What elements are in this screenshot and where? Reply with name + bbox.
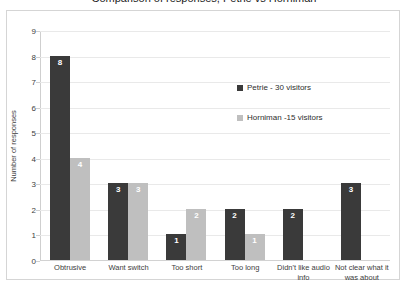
bar[interactable]: 2 bbox=[186, 209, 206, 260]
bar[interactable]: 3 bbox=[128, 183, 148, 260]
bar-group: 2 bbox=[274, 31, 332, 260]
bars-layer: 8433122123 bbox=[41, 31, 390, 260]
bar-value-label: 3 bbox=[128, 185, 148, 194]
bar-value-label: 2 bbox=[186, 211, 206, 220]
y-tick-label: 6 bbox=[16, 103, 36, 112]
bar[interactable]: 2 bbox=[283, 209, 303, 260]
y-tick-mark bbox=[36, 31, 40, 32]
y-tick-label: 1 bbox=[16, 231, 36, 240]
legend-label: Horniman -15 visitors bbox=[247, 113, 323, 122]
page-title: Comparison of responses, Petrie vs Horni… bbox=[0, 0, 408, 5]
x-axis-label: Obtrusive bbox=[41, 263, 99, 282]
bar[interactable]: 4 bbox=[70, 158, 90, 260]
x-axis-label: Too short bbox=[158, 263, 216, 282]
y-tick-mark bbox=[36, 159, 40, 160]
y-axis-title: Number of responses bbox=[9, 110, 18, 182]
x-axis-label: Want switch bbox=[99, 263, 157, 282]
y-tick-mark bbox=[36, 108, 40, 109]
legend-label: Petrie - 30 visitors bbox=[247, 83, 311, 92]
y-tick-mark bbox=[36, 133, 40, 134]
y-tick-mark bbox=[36, 235, 40, 236]
x-axis-label: Too long bbox=[216, 263, 274, 282]
x-axis-baseline bbox=[40, 260, 390, 261]
y-tick-label: 3 bbox=[16, 180, 36, 189]
bar-value-label: 1 bbox=[245, 236, 265, 245]
bar[interactable]: 3 bbox=[108, 183, 128, 260]
bar[interactable]: 1 bbox=[166, 234, 186, 260]
bar-value-label: 3 bbox=[108, 185, 128, 194]
bar-value-label: 1 bbox=[166, 236, 186, 245]
chart-frame: Number of responses 0123456789 843312212… bbox=[6, 10, 400, 280]
y-tick-label: 9 bbox=[16, 27, 36, 36]
y-tick-label: 4 bbox=[16, 154, 36, 163]
y-tick-label: 8 bbox=[16, 52, 36, 61]
plot-area: Number of responses 0123456789 843312212… bbox=[40, 31, 390, 261]
y-tick-label: 2 bbox=[16, 205, 36, 214]
bar-value-label: 2 bbox=[225, 211, 245, 220]
bar-group: 33 bbox=[99, 31, 157, 260]
legend-swatch-icon bbox=[237, 115, 243, 121]
legend-entry[interactable]: Horniman -15 visitors bbox=[237, 113, 367, 122]
y-tick-mark bbox=[36, 184, 40, 185]
y-tick-mark bbox=[36, 261, 40, 262]
y-tick-label: 0 bbox=[16, 257, 36, 266]
bar-group: 84 bbox=[41, 31, 99, 260]
bar-group: 21 bbox=[216, 31, 274, 260]
bar-group: 3 bbox=[332, 31, 390, 260]
bar-value-label: 4 bbox=[70, 160, 90, 169]
chart-legend: Petrie - 30 visitorsHorniman -15 visitor… bbox=[237, 83, 367, 143]
bar[interactable]: 1 bbox=[245, 234, 265, 260]
y-tick-label: 7 bbox=[16, 78, 36, 87]
bar-value-label: 2 bbox=[283, 211, 303, 220]
x-axis-labels: ObtrusiveWant switchToo shortToo longDid… bbox=[41, 263, 391, 282]
bar[interactable]: 3 bbox=[341, 183, 361, 260]
bar[interactable]: 2 bbox=[225, 209, 245, 260]
x-axis-label: Not clear what it was about bbox=[333, 263, 391, 282]
bar[interactable]: 8 bbox=[50, 56, 70, 260]
legend-entry[interactable]: Petrie - 30 visitors bbox=[237, 83, 367, 92]
bar-value-label: 3 bbox=[341, 185, 361, 194]
chart-title-strip: Comparison of responses, Petrie vs Horni… bbox=[0, 0, 408, 5]
y-tick-label: 5 bbox=[16, 129, 36, 138]
y-tick-mark bbox=[36, 57, 40, 58]
y-tick-mark bbox=[36, 210, 40, 211]
x-axis-label: Didn't like audio info bbox=[274, 263, 332, 282]
y-tick-mark bbox=[36, 82, 40, 83]
bar-value-label: 8 bbox=[50, 58, 70, 67]
legend-swatch-icon bbox=[237, 85, 243, 91]
bar-group: 12 bbox=[157, 31, 215, 260]
